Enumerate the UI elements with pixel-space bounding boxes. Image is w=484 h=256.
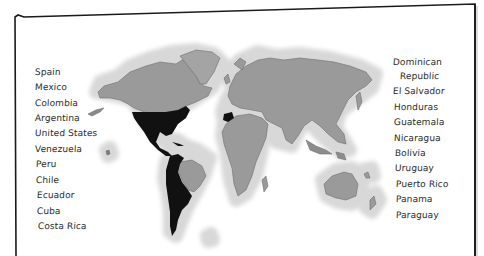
country-label: Costa Rica — [38, 221, 87, 231]
country-label: Honduras — [394, 102, 439, 112]
country-label: Bolivia — [395, 148, 426, 158]
country-label: Puerto Rico — [396, 179, 449, 189]
country-label: Colombia — [35, 98, 79, 108]
country-label: Chile — [36, 175, 60, 185]
country-label: Nicaragua — [394, 133, 441, 143]
country-label: Guatemala — [394, 117, 445, 127]
country-label: Panama — [396, 194, 433, 204]
country-label: Venezuela — [35, 144, 83, 154]
country-label: Argentina — [35, 113, 80, 123]
country-label: Cuba — [37, 206, 61, 216]
country-label: Republic — [400, 71, 440, 81]
country-label: Mexico — [35, 82, 68, 92]
country-label: Dominican — [393, 57, 443, 67]
country-label: Paraguay — [396, 210, 439, 220]
country-label: Uruguay — [395, 163, 434, 173]
country-label: Ecuador — [37, 190, 75, 200]
country-label: Peru — [36, 159, 57, 169]
country-label: Spain — [35, 67, 61, 77]
country-label: United States — [35, 128, 98, 138]
country-label: El Salvador — [393, 86, 445, 96]
